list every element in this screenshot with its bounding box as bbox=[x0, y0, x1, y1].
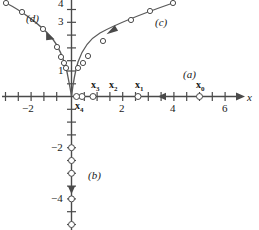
curve-c-marker bbox=[100, 38, 105, 43]
iterate-marker-x0 bbox=[197, 94, 203, 100]
iterate-label-x4-sub: 4 bbox=[80, 106, 84, 114]
iterate-label-x4: x4 bbox=[75, 101, 84, 114]
sequence-b-marker bbox=[69, 145, 75, 151]
y-tick-label-3: 3 bbox=[58, 16, 64, 27]
sequence-b-marker bbox=[69, 222, 75, 228]
x-tick-label-4: 4 bbox=[170, 103, 176, 114]
iterate-label-x0-sub: 0 bbox=[201, 85, 205, 93]
curve-d-marker bbox=[40, 26, 45, 31]
curve-d-marker bbox=[19, 9, 24, 14]
x-tick-label-2: 2 bbox=[119, 103, 125, 114]
sequence-b-arrow bbox=[68, 186, 75, 194]
curve-c-marker bbox=[170, 0, 175, 5]
curve-c-marker bbox=[85, 53, 90, 58]
curve-d-marker bbox=[54, 44, 59, 49]
sequence-b-marker bbox=[69, 196, 75, 202]
math-plot-canvas bbox=[0, 0, 259, 230]
iterate-label-x3-sub: 3 bbox=[96, 85, 100, 93]
x-tick-label--2: −2 bbox=[22, 103, 34, 114]
y-tick-label--2: −2 bbox=[51, 142, 63, 153]
sequence-b-marker bbox=[69, 158, 75, 164]
x-axis bbox=[2, 92, 245, 101]
iterate-marker-x4 bbox=[74, 94, 80, 100]
iterate-label-x0: x0 bbox=[196, 80, 205, 93]
curve-c-marker bbox=[80, 60, 85, 65]
iterate-label-x1: x1 bbox=[135, 80, 144, 93]
curve-c-marker bbox=[147, 8, 152, 13]
iterate-label-x3: x3 bbox=[91, 80, 100, 93]
sequence-b-marker bbox=[69, 170, 75, 176]
sequence-a-arrow bbox=[158, 93, 166, 100]
iterate-marker-x2 bbox=[90, 94, 96, 100]
iterate-label-x1-sub: 1 bbox=[140, 85, 144, 93]
iterate-marker-x1 bbox=[135, 94, 141, 100]
curve-d-marker bbox=[3, 0, 8, 5]
y-tick-label-1: 1 bbox=[58, 65, 64, 76]
y-tick-label-4: 4 bbox=[58, 0, 64, 9]
x-tick-label-6: 6 bbox=[222, 103, 228, 114]
curve-label-a: (a) bbox=[183, 69, 196, 80]
curve-label-c: (c) bbox=[155, 17, 167, 28]
iterate-label-x2: x2 bbox=[109, 80, 118, 93]
curve-d-marker bbox=[63, 65, 68, 70]
curve-label-d: (d) bbox=[26, 13, 39, 24]
y-tick-label--4: −4 bbox=[51, 193, 63, 204]
curve-d-marker bbox=[58, 54, 63, 59]
curve-label-b: (b) bbox=[88, 170, 101, 181]
curve-c-marker bbox=[75, 65, 80, 70]
iterate-label-x2-sub: 2 bbox=[114, 85, 118, 93]
curve-c bbox=[72, 0, 176, 96]
x-axis-label: x bbox=[247, 92, 252, 103]
curve-c-marker bbox=[128, 17, 133, 22]
